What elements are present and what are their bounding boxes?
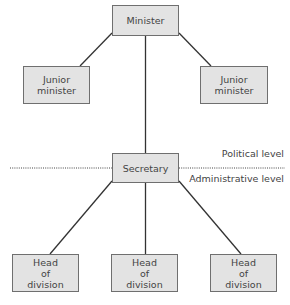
political-level-label: Political level — [222, 148, 284, 159]
node-label: Minister — [127, 15, 165, 26]
connector-secretary-head-left — [50, 181, 112, 254]
node-head-of-division-left: Head of division — [12, 254, 79, 292]
node-label: Head of division — [27, 257, 64, 290]
node-minister: Minister — [112, 5, 179, 36]
node-label: Head of division — [225, 257, 262, 290]
node-label: Head of division — [126, 257, 163, 290]
administrative-level-label: Administrative level — [189, 173, 284, 184]
connector-minister-junior-right — [179, 33, 211, 66]
node-label: Junior minister — [213, 74, 255, 96]
connector-minister-junior-left — [80, 33, 112, 66]
node-head-of-division-middle: Head of division — [111, 254, 178, 292]
node-label: Junior minister — [36, 74, 77, 96]
connector-secretary-head-right — [179, 181, 241, 254]
node-head-of-division-right: Head of division — [210, 254, 277, 292]
node-label: Secretary — [123, 163, 169, 174]
node-secretary: Secretary — [112, 153, 179, 183]
node-junior-minister-right: Junior minister — [200, 66, 268, 104]
node-junior-minister-left: Junior minister — [23, 66, 90, 104]
